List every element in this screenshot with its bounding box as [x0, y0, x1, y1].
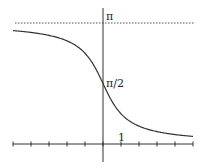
x-tick-label-1: 1: [118, 131, 125, 144]
arccot-chart: π π/2 1: [0, 0, 202, 167]
half-pi-label: π/2: [106, 77, 124, 90]
pi-label: π: [106, 10, 113, 23]
plot-area: π π/2 1: [13, 8, 194, 162]
